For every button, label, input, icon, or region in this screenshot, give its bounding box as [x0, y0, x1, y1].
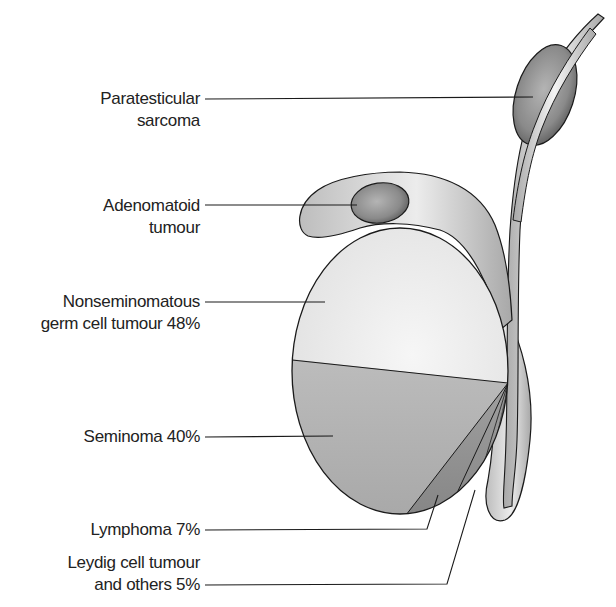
label-lymphoma-line1: Lymphoma 7%: [91, 519, 200, 541]
leader-paratesticular: [205, 97, 533, 99]
label-paratesticular-sarcoma: Paratesticular sarcoma: [100, 88, 200, 132]
label-nonseminomatous-line1: Nonseminomatous: [41, 291, 200, 313]
label-adenomatoid-line1: Adenomatoid: [103, 195, 200, 217]
label-adenomatoid-line2: tumour: [103, 217, 200, 239]
label-adenomatoid-tumour: Adenomatoid tumour: [103, 195, 200, 239]
label-paratesticular-line1: Paratesticular: [100, 88, 200, 110]
label-seminoma: Seminoma 40%: [84, 426, 200, 448]
label-leydig-line1: Leydig cell tumour: [67, 552, 200, 574]
label-nonseminomatous: Nonseminomatous germ cell tumour 48%: [41, 291, 200, 335]
label-seminoma-line1: Seminoma 40%: [84, 426, 200, 448]
label-nonseminomatous-line2: germ cell tumour 48%: [41, 313, 200, 335]
label-paratesticular-line2: sarcoma: [100, 110, 200, 132]
label-leydig: Leydig cell tumour and others 5%: [67, 552, 200, 596]
label-leydig-line2: and others 5%: [67, 574, 200, 596]
label-lymphoma: Lymphoma 7%: [91, 519, 200, 541]
